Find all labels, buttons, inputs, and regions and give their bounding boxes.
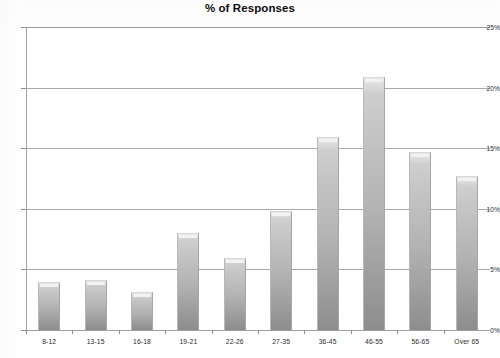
y-axis-tick-mark — [21, 148, 26, 149]
x-axis-tick-mark — [258, 330, 259, 334]
y-axis-tick-mark — [21, 269, 26, 270]
bar — [409, 152, 431, 330]
x-axis-tick-mark — [304, 330, 305, 334]
bar — [85, 280, 107, 330]
bar — [177, 233, 199, 330]
chart-container: % of Responses 0%5%10%15%20%25% 8-1213-1… — [0, 0, 500, 358]
bar — [38, 282, 60, 330]
bar — [317, 137, 339, 330]
chart-title: % of Responses — [0, 2, 500, 14]
x-axis-tick-mark — [26, 330, 27, 334]
y-axis-tick-label: 5% — [478, 266, 500, 273]
bar — [270, 211, 292, 330]
y-axis-tick-label: 0% — [478, 327, 500, 334]
y-axis-tick-mark — [21, 209, 26, 210]
y-axis-tick-mark — [21, 88, 26, 89]
x-axis-tick-mark — [165, 330, 166, 334]
x-axis-tick-label: 46-55 — [365, 338, 383, 345]
x-axis-tick-label: 13-15 — [87, 338, 105, 345]
gridline — [26, 27, 490, 28]
x-axis-tick-mark — [444, 330, 445, 334]
x-axis-tick-label: 19-21 — [179, 338, 197, 345]
gridline — [26, 148, 490, 149]
x-axis-tick-mark — [212, 330, 213, 334]
x-axis-tick-mark — [119, 330, 120, 334]
bar — [456, 176, 478, 330]
x-axis-tick-label: 8-12 — [42, 338, 56, 345]
y-axis-tick-mark — [21, 27, 26, 28]
x-axis-tick-label: 16-18 — [133, 338, 151, 345]
x-axis-tick-label: Over 65 — [454, 338, 479, 345]
y-axis-tick-label: 15% — [478, 145, 500, 152]
x-axis-tick-mark — [397, 330, 398, 334]
y-axis-tick-label: 25% — [478, 24, 500, 31]
plot-area — [26, 27, 490, 330]
bar — [224, 258, 246, 330]
bar — [131, 292, 153, 330]
x-axis-tick-mark — [72, 330, 73, 334]
x-axis-tick-label: 56-65 — [411, 338, 429, 345]
x-axis-tick-label: 22-26 — [226, 338, 244, 345]
x-axis-tick-mark — [351, 330, 352, 334]
y-axis-tick-label: 20% — [478, 84, 500, 91]
y-axis-tick-label: 10% — [478, 205, 500, 212]
gridline — [26, 88, 490, 89]
x-axis-tick-label: 36-45 — [319, 338, 337, 345]
bar — [363, 77, 385, 330]
x-axis-tick-label: 27-35 — [272, 338, 290, 345]
